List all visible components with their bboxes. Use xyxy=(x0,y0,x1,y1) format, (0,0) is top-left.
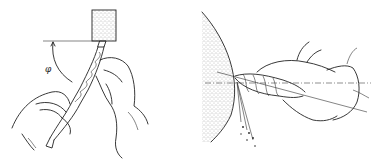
sparks xyxy=(237,82,256,147)
twist-drill xyxy=(235,74,305,98)
drill-grinding-figure: φ xyxy=(0,0,374,165)
angle-label: φ xyxy=(45,64,52,74)
hands xyxy=(257,42,369,121)
panel-left-front-view: φ xyxy=(0,0,187,165)
twist-drill xyxy=(46,41,106,148)
grinding-wheel-arc xyxy=(202,12,235,142)
grinding-wheel-block xyxy=(92,10,116,41)
right-hand xyxy=(96,58,148,158)
left-hand xyxy=(12,92,71,150)
panel-right-side-view xyxy=(187,0,374,165)
angle-arc xyxy=(53,42,72,82)
